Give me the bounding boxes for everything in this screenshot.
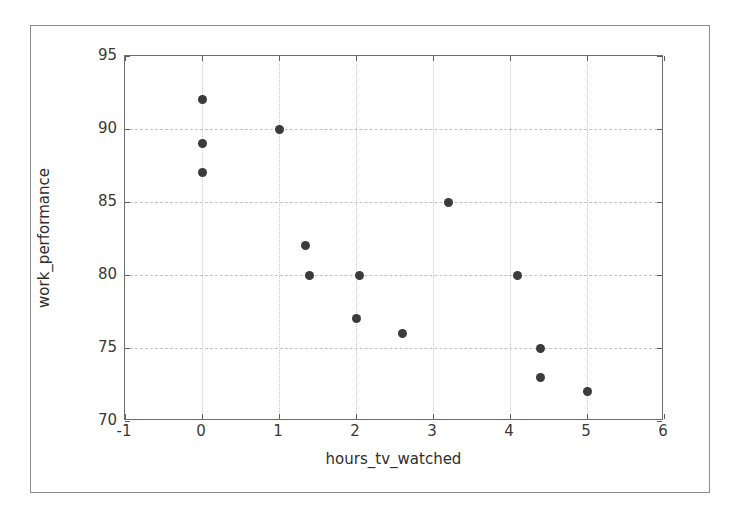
x-tick-mark — [664, 414, 665, 419]
scatter-point — [305, 271, 314, 280]
y-tick-mark-right — [657, 421, 662, 422]
y-tick-mark — [125, 202, 130, 203]
x-tick-mark — [510, 414, 511, 419]
gridline-horizontal — [125, 275, 662, 276]
y-tick-label: 95 — [98, 48, 117, 63]
scatter-point — [536, 344, 545, 353]
scatter-point — [198, 95, 207, 104]
gridline-vertical — [587, 56, 588, 419]
y-tick-label: 85 — [98, 194, 117, 209]
plot-axes-area — [124, 55, 663, 420]
scatter-point — [355, 271, 364, 280]
x-tick-mark-top — [356, 56, 357, 61]
x-tick-mark-top — [510, 56, 511, 61]
y-tick-label: 80 — [98, 267, 117, 282]
chart-screenshot: 707580859095 -10123456 hours_tv_watched … — [0, 0, 740, 520]
scatter-point — [536, 373, 545, 382]
scatter-point — [444, 198, 453, 207]
x-tick-label: 1 — [273, 424, 283, 439]
x-tick-label: 3 — [427, 424, 437, 439]
y-tick-label-group: 707580859095 — [84, 0, 117, 520]
x-tick-label: 4 — [504, 424, 514, 439]
x-tick-mark — [587, 414, 588, 419]
y-tick-label: 70 — [98, 413, 117, 428]
gridline-horizontal — [125, 129, 662, 130]
x-tick-mark-top — [664, 56, 665, 61]
scatter-point — [275, 125, 284, 134]
scatter-point — [513, 271, 522, 280]
x-axis-label: hours_tv_watched — [124, 450, 663, 468]
x-tick-mark-top — [202, 56, 203, 61]
x-tick-mark-top — [587, 56, 588, 61]
y-tick-mark-right — [657, 56, 662, 57]
y-tick-label: 90 — [98, 121, 117, 136]
gridline-vertical — [356, 56, 357, 419]
gridline-vertical — [510, 56, 511, 419]
scatter-point — [198, 139, 207, 148]
scatter-point — [583, 387, 592, 396]
y-tick-mark-right — [657, 202, 662, 203]
y-tick-mark — [125, 275, 130, 276]
gridline-vertical — [433, 56, 434, 419]
x-tick-mark-top — [279, 56, 280, 61]
x-tick-label: 5 — [581, 424, 591, 439]
scatter-point — [198, 168, 207, 177]
x-tick-mark — [202, 414, 203, 419]
y-tick-mark — [125, 421, 130, 422]
gridline-horizontal — [125, 348, 662, 349]
x-tick-label: 0 — [196, 424, 206, 439]
x-tick-mark — [433, 414, 434, 419]
x-tick-mark — [279, 414, 280, 419]
y-tick-mark-right — [657, 348, 662, 349]
x-tick-label: 2 — [350, 424, 360, 439]
y-tick-mark — [125, 348, 130, 349]
x-tick-mark-top — [433, 56, 434, 61]
gridline-vertical — [279, 56, 280, 419]
scatter-point — [352, 314, 361, 323]
y-tick-mark — [125, 56, 130, 57]
y-axis-label: work_performance — [35, 168, 53, 308]
x-tick-mark — [125, 414, 126, 419]
scatter-point — [398, 329, 407, 338]
y-tick-mark — [125, 129, 130, 130]
scatter-point — [301, 241, 310, 250]
x-tick-mark — [356, 414, 357, 419]
y-tick-mark-right — [657, 275, 662, 276]
gridline-horizontal — [125, 202, 662, 203]
y-tick-mark-right — [657, 129, 662, 130]
gridline-vertical — [202, 56, 203, 419]
x-tick-label: 6 — [658, 424, 668, 439]
x-tick-label: -1 — [117, 424, 132, 439]
y-tick-label: 75 — [98, 340, 117, 355]
